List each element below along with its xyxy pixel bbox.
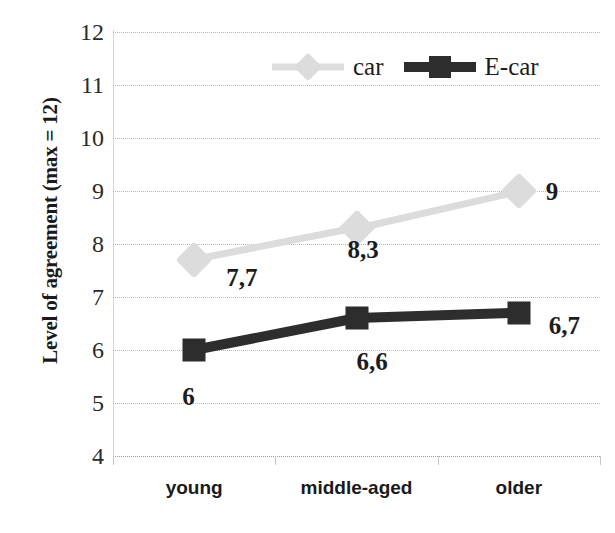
gridline [113,32,600,33]
y-axis-tick-label: 5 [56,391,104,415]
y-axis-tick-labels: 121110987654 [46,0,104,533]
x-axis-category-label: middle-aged [272,477,442,499]
legend-marker-icon [429,56,451,78]
legend-item-ecar[interactable]: E-car [404,53,559,81]
legend-marker-icon [294,53,322,81]
y-axis-tick-label: 7 [56,285,104,309]
x-axis-category-label: older [434,477,604,499]
chart-figure: Level of agreement (max = 12) 1211109876… [0,0,615,533]
gridline [113,138,600,139]
x-axis-tick [438,456,439,465]
legend-label: E-car [485,53,539,81]
plot-area [113,32,600,456]
y-axis-tick-label: 8 [56,232,104,256]
legend-item-car[interactable]: car [272,53,404,81]
y-axis-tick-label: 10 [56,126,104,150]
gridline [113,403,600,404]
y-axis-tick-label: 4 [56,444,104,468]
y-axis-tick-label: 11 [56,73,104,97]
legend-swatch-icon [272,54,344,80]
y-axis-tick-label: 12 [56,20,104,44]
gridline [113,456,600,457]
gridline [113,85,600,86]
legend-swatch-icon [404,54,476,80]
gridline [113,350,600,351]
x-axis-tick [113,456,114,465]
y-axis-tick-label: 9 [56,179,104,203]
x-axis-tick [600,456,601,465]
y-axis-tick-label: 6 [56,338,104,362]
gridline [113,244,600,245]
gridline [113,297,600,298]
legend-label: car [353,53,384,81]
gridline [113,191,600,192]
x-axis-tick [275,456,276,465]
x-axis-category-label: young [109,477,279,499]
chart-legend: carE-car [272,52,559,82]
